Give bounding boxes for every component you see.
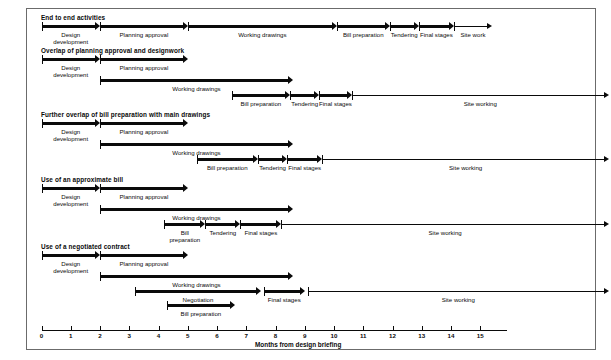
bar-shaft [319, 94, 346, 97]
bar-shaft [258, 158, 282, 161]
axis-tick-label: 5 [186, 332, 189, 339]
axis-tick [363, 326, 364, 330]
bar-shaft [188, 25, 332, 28]
activity-bar [100, 251, 188, 260]
axis-tick [276, 326, 277, 330]
activity-label: Final stages [221, 229, 301, 236]
bar-shaft [100, 25, 183, 28]
arrowhead-icon [183, 55, 188, 63]
axis-tick-label: 12 [389, 332, 396, 339]
activity-bar [319, 91, 351, 100]
activity-bar [197, 155, 258, 164]
bar-shaft [42, 187, 96, 190]
activity-label: Designdevelopment [31, 193, 111, 207]
axis-tick-label: 6 [215, 332, 218, 339]
axis-tick-label: 11 [360, 332, 367, 339]
activity-label: Designdevelopment [31, 64, 111, 78]
axis-tick [334, 326, 335, 330]
activity-bar [135, 287, 261, 296]
activity-bar [287, 155, 322, 164]
activity-bar [42, 119, 101, 128]
bar-shaft [232, 94, 286, 97]
activity-label: Final stages [244, 296, 324, 303]
bar-shaft [100, 208, 288, 211]
arrowhead-icon [183, 184, 188, 192]
activity-label: Planning approval [104, 31, 184, 38]
bar-shaft [42, 122, 96, 125]
activity-bar [100, 119, 188, 128]
section-title: Further overlap of bill preparation with… [41, 111, 210, 118]
arrowhead-icon [288, 205, 293, 213]
section-title: Overlap of planning approval and designw… [41, 47, 184, 54]
bar-shaft [419, 25, 449, 28]
bar-shaft [100, 254, 183, 257]
activity-label: Site work [433, 31, 513, 38]
activity-label: Site working [418, 296, 498, 303]
axis-caption-label: Months from design briefing [255, 341, 341, 348]
axis-tick-label: 3 [128, 332, 131, 339]
axis-tick [159, 326, 160, 330]
bar-shaft [164, 223, 200, 226]
section-title: Use of a negotiated contract [41, 243, 130, 250]
activity-bar [352, 91, 609, 100]
axis-tick [422, 326, 423, 330]
arrowhead-icon [604, 221, 609, 227]
bar-shaft [100, 143, 288, 146]
bar-shaft [290, 94, 314, 97]
activity-bar [42, 55, 101, 64]
bar-shaft [197, 158, 253, 161]
bar-shaft [42, 25, 96, 28]
arrowhead-icon [288, 272, 293, 280]
bar-shaft [100, 79, 288, 82]
activity-label: Final stages [295, 100, 375, 107]
bar-shaft [308, 291, 604, 292]
activity-label: Final stages [265, 164, 345, 171]
activity-bar [42, 251, 101, 260]
axis-tick-label: 1 [69, 332, 72, 339]
arrowhead-icon [487, 23, 492, 29]
axis-tick-label: 7 [245, 332, 248, 339]
axis-tick [71, 326, 72, 330]
activity-bar [308, 287, 609, 296]
bar-shaft [281, 224, 604, 225]
activity-bar [100, 205, 293, 214]
bar-shaft [287, 158, 317, 161]
axis-tick [480, 326, 481, 330]
activity-bar [100, 272, 293, 281]
axis-tick [42, 326, 43, 330]
axis-tick [246, 326, 247, 330]
activity-bar [337, 22, 390, 31]
activity-label: Designdevelopment [31, 31, 111, 45]
activity-label: Designdevelopment [31, 128, 111, 142]
arrowhead-icon [256, 287, 261, 295]
bar-shaft [100, 275, 288, 278]
activity-bar [322, 155, 609, 164]
activity-bar [419, 22, 454, 31]
activity-bar [232, 91, 291, 100]
activity-label: Planning approval [104, 260, 184, 267]
axis-tick-label: 13 [418, 332, 425, 339]
activity-bar [42, 22, 101, 31]
axis-tick-label: 0 [40, 332, 43, 339]
axis-tick-label: 10 [331, 332, 338, 339]
arrowhead-icon [183, 251, 188, 259]
arrowhead-icon [288, 76, 293, 84]
activity-bar [164, 220, 205, 229]
arrowhead-icon [288, 140, 293, 148]
activity-bar [100, 140, 293, 149]
bar-shaft [390, 25, 414, 28]
figure-canvas: 0123456789101112131415 Months from desig… [0, 0, 611, 360]
axis-line [42, 330, 507, 331]
arrowhead-icon [183, 119, 188, 127]
arrowhead-icon [604, 288, 609, 294]
section-title: End to end activities [41, 14, 105, 21]
activity-bar [100, 55, 188, 64]
axis-tick [100, 326, 101, 330]
bar-shaft [454, 26, 487, 27]
bar-shaft [167, 304, 229, 307]
arrowhead-icon [604, 92, 609, 98]
activity-bar [100, 184, 188, 193]
activity-bar [167, 301, 234, 310]
arrowhead-icon [300, 287, 305, 295]
activity-bar [454, 22, 492, 31]
